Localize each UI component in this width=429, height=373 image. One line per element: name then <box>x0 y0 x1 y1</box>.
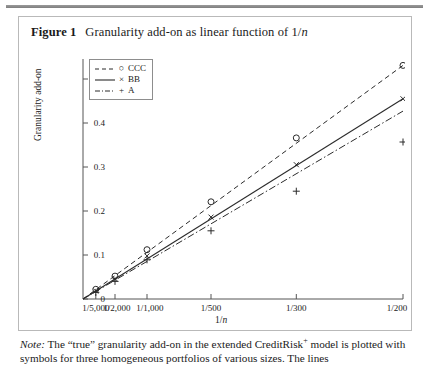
legend-label: A <box>127 85 135 96</box>
legend-item-ccc: ○ CCC <box>94 63 146 74</box>
chart-legend: ○ CCC × BB + A <box>89 59 153 100</box>
legend-line-dashdot-icon <box>94 85 116 96</box>
legend-line-solid-icon <box>94 74 116 85</box>
figure-panel: Figure 1Granularity add-on as linear fun… <box>18 16 412 331</box>
note-text-line1b: model is <box>308 338 349 350</box>
points-a <box>92 139 405 296</box>
legend-line-dashed-icon <box>94 63 116 74</box>
legend-item-bb: × BB <box>94 74 146 85</box>
x-tick-label: 1/300 <box>286 303 307 313</box>
y-tick-label: 0.3 <box>94 162 105 172</box>
figure-title: Figure 1Granularity add-on as linear fun… <box>31 25 308 40</box>
note-label: Note: <box>20 338 45 350</box>
y-tick-label: 0.4 <box>94 118 105 128</box>
x-tick-marks <box>96 294 403 299</box>
y-tick-label: 0.2 <box>94 206 105 216</box>
legend-item-a: + A <box>94 85 146 96</box>
figure-title-text: Granularity add-on as linear function of… <box>85 25 301 39</box>
chart-plot-area: 0 0.1 0.2 0.3 0.4 0.5 Granularity add-on… <box>65 51 405 321</box>
page-top-rule <box>6 5 423 8</box>
fit-line-bb <box>83 99 403 299</box>
fit-line-a <box>83 111 403 299</box>
legend-label: CCC <box>127 63 146 74</box>
x-tick-label: 1/500 <box>201 303 222 313</box>
figure-note: Note: The “true” granularity add-on in t… <box>20 334 415 365</box>
x-axis-tick-labels: 1/5,000 1/2,000 1/1,000 1/500 1/300 1/20… <box>65 303 405 319</box>
legend-label: BB <box>127 74 140 85</box>
cross-x-marker-icon: × <box>116 74 127 85</box>
x-tick-label: 1/1,000 <box>136 303 163 313</box>
x-tick-label: 1/200 <box>387 303 408 313</box>
x-axis-title-italic: n <box>222 315 227 325</box>
plus-marker-icon: + <box>116 85 127 96</box>
y-axis-title: Granularity add-on <box>33 68 43 141</box>
x-tick-label: 1/2,000 <box>103 303 130 313</box>
circle-marker-icon: ○ <box>116 63 127 74</box>
y-tick-label: 0.1 <box>94 250 105 260</box>
figure-title-italic: n <box>301 25 307 39</box>
note-text-line1: The “true” granularity add-on in the ext… <box>47 338 303 350</box>
x-axis-title: 1/n <box>215 315 227 325</box>
fit-line-ccc <box>83 65 403 299</box>
figure-label: Figure 1 <box>31 25 76 39</box>
